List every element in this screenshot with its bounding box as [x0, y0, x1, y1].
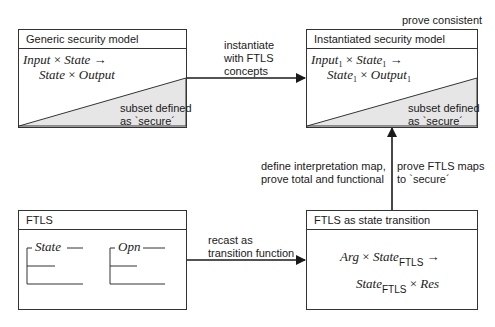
instantiated-formula-line2: State1 × Output1: [327, 67, 411, 84]
generic-subset-label: subset defined as `secure´: [120, 102, 192, 128]
interpretation-label: define interpretation map, prove total a…: [261, 160, 386, 186]
transition-formula-line1: Arg × StateFTLS →: [340, 249, 440, 268]
prove-ftls-maps-label: prove FTLS maps to `secure´: [397, 160, 484, 186]
state-schema-title: State: [33, 240, 63, 254]
generic-formula-line1: Input × State →: [23, 52, 107, 68]
recast-label: recast as transition function: [208, 234, 294, 260]
generic-formula-line2: State × Output: [39, 67, 115, 83]
instantiated-subset-label: subset defined as `secure´: [408, 102, 480, 128]
ftls-transition-box-title: FTLS as state transition: [307, 211, 477, 230]
ftls-state-transition-box: FTLS as state transition Arg × StateFTLS…: [306, 210, 478, 310]
generic-security-model-box: Generic security model Input × State → S…: [18, 29, 187, 128]
prove-consistent-label: prove consistent: [402, 14, 482, 27]
transition-formula-line2: StateFTLS × Res: [356, 276, 439, 295]
instantiated-security-model-box: Instantiated security model Input1 × Sta…: [306, 29, 478, 128]
opn-schema-title: Opn: [116, 240, 142, 254]
ftls-box: FTLS State Opn: [18, 210, 187, 310]
instantiate-label: instantiate with FTLS concepts: [224, 39, 274, 78]
schema-brackets: [19, 211, 186, 309]
